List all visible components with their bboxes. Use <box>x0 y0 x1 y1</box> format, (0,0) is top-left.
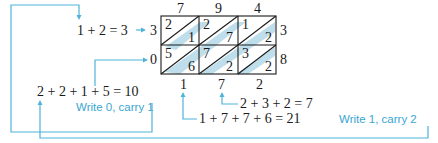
cell-tens: 3 <box>242 46 249 61</box>
cell-ones: 6 <box>188 59 195 74</box>
equation-diag-big: 1 + 7 + 7 + 6 = 21 <box>199 111 301 126</box>
right-digit: 3 <box>280 23 287 38</box>
carry-note-2: Write 1, carry 2 <box>339 113 417 125</box>
carry-note-1: Write 0, carry 1 <box>76 101 154 113</box>
cell-tens: 7 <box>203 46 210 61</box>
right-digit: 8 <box>280 52 287 67</box>
result-bottom-digit: 7 <box>218 77 225 92</box>
cell-tens: 1 <box>242 17 249 32</box>
cell-ones: 7 <box>226 30 233 45</box>
equation-diag-left: 2 + 2 + 1 + 5 = 10 <box>37 84 139 99</box>
equation-diag-mid: 2 + 3 + 2 = 7 <box>240 96 313 111</box>
cell-ones: 1 <box>188 30 195 45</box>
cell-ones: 2 <box>265 59 272 74</box>
top-digit: 7 <box>177 1 184 16</box>
result-left-digit: 3 <box>150 23 157 38</box>
arrow-to-bottom-7 <box>222 95 238 104</box>
cell-tens: 2 <box>203 17 210 32</box>
result-bottom-digit: 2 <box>256 77 263 92</box>
top-digit: 9 <box>215 1 222 16</box>
arrow-to-zero <box>95 60 145 86</box>
cell-ones: 2 <box>226 59 233 74</box>
top-digit: 4 <box>254 1 261 16</box>
result-bottom-digit: 1 <box>180 77 187 92</box>
cell-ones: 2 <box>265 30 272 45</box>
cell-tens: 5 <box>165 46 172 61</box>
lattice-multiplication-diagram: 7 9 4 3 8 2 1 2 7 1 2 5 6 7 2 3 2 3 0 1 … <box>0 0 438 143</box>
equation-diag1: 1 + 2 = 3 <box>77 23 128 38</box>
cell-tens: 2 <box>165 17 172 32</box>
arrow-to-bottom-1 <box>183 95 197 119</box>
result-left-digit: 0 <box>150 52 157 67</box>
